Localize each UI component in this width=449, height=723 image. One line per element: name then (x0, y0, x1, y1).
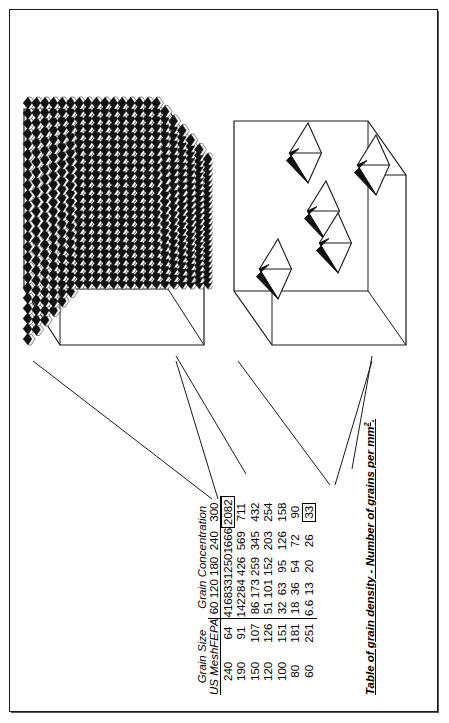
cell-concentration-120: 284 (235, 579, 248, 598)
rotated-content-wrapper: Grain Size Grain Concentration US Mesh F… (0, 0, 449, 723)
caption-text: Table of grain density - Number of grain… (364, 426, 376, 695)
cell-concentration-120: 101 (262, 579, 275, 598)
cell-fepa: 126 (262, 618, 275, 648)
cell-concentration-180: 152 (262, 554, 275, 580)
cell-us-mesh: 240 (221, 648, 236, 695)
cell-concentration-240: 126 (276, 528, 289, 554)
highlighted-value: 2082 (221, 496, 235, 528)
cell-concentration-120: 63 (276, 579, 289, 598)
document-page: Grain Size Grain Concentration US Mesh F… (0, 0, 449, 723)
cell-concentration-60: 86 (249, 598, 262, 618)
cell-concentration-300: 254 (262, 496, 275, 528)
cell-concentration-60: 18 (289, 598, 302, 618)
cell-concentration-300: 2082 (221, 496, 236, 528)
highlighted-value: 33 (302, 503, 316, 522)
column-header-conc-60: 60 (208, 598, 221, 618)
table-caption: Table of grain density - Number of grain… (362, 419, 376, 695)
cell-fepa: 107 (249, 618, 262, 648)
cell-concentration-180: 54 (289, 554, 302, 580)
column-header-conc-300: 300 (208, 496, 221, 528)
cell-us-mesh: 120 (262, 648, 275, 695)
cell-us-mesh: 190 (235, 648, 248, 695)
cell-concentration-180: 95 (276, 554, 289, 580)
table-column-header-row: US Mesh FEPA 60 120 180 240 300 (208, 496, 221, 695)
cell-concentration-240: 1666 (221, 528, 236, 554)
table-head: Grain Size Grain Concentration US Mesh F… (196, 496, 221, 695)
column-header-conc-180: 180 (208, 554, 221, 580)
cell-concentration-60: 51 (262, 598, 275, 618)
cell-concentration-180: 20 (302, 554, 316, 580)
column-header-conc-240: 240 (208, 528, 221, 554)
table-row: 801811836547290 (289, 496, 302, 695)
cell-concentration-120: 13 (302, 579, 316, 598)
cell-fepa: 91 (235, 618, 248, 648)
cell-us-mesh: 60 (302, 648, 316, 695)
column-header-fepa: FEPA (208, 618, 221, 648)
cell-concentration-60: 32 (276, 598, 289, 618)
cell-concentration-240: 203 (262, 528, 275, 554)
table-row: 100151326395126158 (276, 496, 289, 695)
cell-concentration-180: 259 (249, 554, 262, 580)
cell-us-mesh: 100 (276, 648, 289, 695)
cell-concentration-180: 426 (235, 554, 248, 580)
column-header-us-mesh: US Mesh (208, 648, 221, 695)
dense-grain-cube-illustration (18, 71, 213, 361)
cell-concentration-300: 90 (289, 496, 302, 528)
table-row: 24064416833125016662082 (221, 496, 236, 695)
caption-superscript: 2 (362, 422, 371, 426)
table-group-header-row: Grain Size Grain Concentration (196, 496, 208, 695)
grain-marker (152, 97, 164, 109)
grain-density-table: Grain Size Grain Concentration US Mesh F… (196, 496, 317, 695)
cell-concentration-240: 569 (235, 528, 248, 554)
group-header-grain-size: Grain Size (196, 618, 208, 695)
cell-concentration-240: 26 (302, 528, 316, 554)
landscape-canvas: Grain Size Grain Concentration US Mesh F… (0, 10, 429, 713)
cell-concentration-180: 1250 (221, 554, 236, 580)
cell-concentration-120: 173 (249, 579, 262, 598)
cell-concentration-240: 72 (289, 528, 302, 554)
cell-us-mesh: 150 (249, 648, 262, 695)
cell-concentration-60: 6.6 (302, 598, 316, 618)
cell-concentration-60: 142 (235, 598, 248, 618)
cell-concentration-60: 416 (221, 598, 236, 618)
cell-concentration-240: 345 (249, 528, 262, 554)
cell-fepa: 251 (302, 618, 316, 648)
sparse-grain-cube-illustration (226, 71, 411, 361)
table-element: Grain Size Grain Concentration US Mesh F… (196, 496, 317, 695)
cell-fepa: 181 (289, 618, 302, 648)
table-row: 15010786173259345432 (249, 496, 262, 695)
table-body: 2406441683312501666208219091142284426569… (221, 496, 317, 695)
cell-concentration-120: 833 (221, 579, 236, 598)
cell-concentration-120: 36 (289, 579, 302, 598)
cell-us-mesh: 80 (289, 648, 302, 695)
cell-concentration-300: 711 (235, 496, 248, 528)
table-row: 12012651101152203254 (262, 496, 275, 695)
cell-concentration-300: 432 (249, 496, 262, 528)
cell-fepa: 64 (221, 618, 236, 648)
cell-concentration-300: 33 (302, 496, 316, 528)
cell-fepa: 151 (276, 618, 289, 648)
group-header-grain-concentration: Grain Concentration (196, 496, 208, 618)
cell-concentration-300: 158 (276, 496, 289, 528)
table-row: 602516.613202633 (302, 496, 316, 695)
table-row: 19091142284426569711 (235, 496, 248, 695)
column-header-conc-120: 120 (208, 579, 221, 598)
